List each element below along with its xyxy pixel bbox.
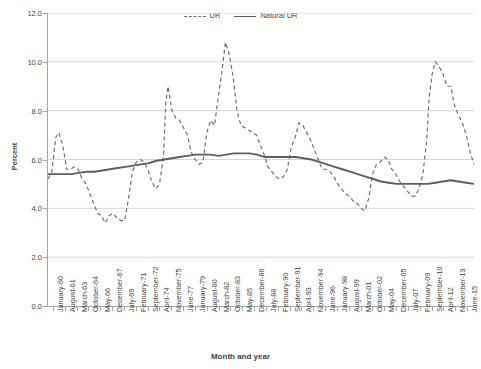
x-tick-label: August-99	[352, 279, 361, 312]
x-tick-label: January-60	[56, 276, 65, 312]
x-tick-label: September-10	[435, 266, 444, 312]
x-tick-label: January-79	[198, 276, 207, 312]
x-tick-mark	[136, 307, 137, 311]
x-tick-mark	[242, 307, 243, 311]
x-tick-mark	[159, 307, 160, 311]
x-tick-mark	[53, 307, 54, 311]
x-tick-mark	[124, 307, 125, 311]
x-tick-mark	[77, 307, 78, 311]
x-tick-mark	[112, 307, 113, 311]
x-tick-mark	[349, 307, 350, 311]
x-tick-label: April-12	[446, 287, 455, 312]
x-tick-mark	[266, 307, 267, 311]
x-tick-label: October-64	[91, 276, 100, 312]
x-tick-label: February-90	[281, 273, 290, 312]
x-tick-mark	[420, 307, 421, 311]
x-tick-mark	[148, 307, 149, 311]
x-tick-label: March-82	[222, 282, 231, 312]
x-tick-label: June-96	[328, 286, 337, 312]
x-tick-mark	[230, 307, 231, 311]
x-tick-mark	[384, 307, 385, 311]
x-tick-mark	[361, 307, 362, 311]
x-tick-mark	[207, 307, 208, 311]
x-tick-label: July-88	[269, 289, 278, 312]
x-tick-label: February-09	[423, 273, 432, 312]
x-tick-mark	[313, 307, 314, 311]
x-tick-label: July-07	[411, 289, 420, 312]
x-tick-mark	[278, 307, 279, 311]
x-tick-mark	[171, 307, 172, 311]
x-axis-title: Month and year	[0, 352, 481, 361]
x-tick-label: May-04	[387, 288, 396, 312]
x-tick-label: March-01	[364, 282, 373, 312]
x-tick-mark	[254, 307, 255, 311]
x-tick-label: May-66	[103, 288, 112, 312]
x-tick-label: October-83	[233, 276, 242, 312]
x-tick-label: June-77	[186, 286, 195, 312]
x-tick-mark	[432, 307, 433, 311]
x-tick-label: June-15	[470, 286, 479, 312]
x-tick-label: September-91	[293, 266, 302, 312]
x-axis-tick-labels: January-60August-61March-63October-64May…	[0, 0, 481, 369]
x-tick-mark	[65, 307, 66, 311]
x-tick-label: November-13	[458, 268, 467, 312]
x-tick-label: November-94	[316, 268, 325, 312]
x-tick-label: August-80	[210, 279, 219, 312]
x-tick-label: April-93	[304, 287, 313, 312]
x-tick-mark	[455, 307, 456, 311]
x-tick-label: February-71	[139, 273, 148, 312]
x-tick-label: April-74	[162, 287, 171, 312]
x-tick-mark	[100, 307, 101, 311]
x-tick-label: July-69	[127, 289, 136, 312]
x-tick-mark	[325, 307, 326, 311]
x-tick-mark	[337, 307, 338, 311]
x-tick-mark	[219, 307, 220, 311]
x-tick-label: May-85	[245, 288, 254, 312]
x-tick-mark	[88, 307, 89, 311]
x-tick-mark	[408, 307, 409, 311]
x-tick-mark	[195, 307, 196, 311]
x-tick-label: December-67	[115, 268, 124, 312]
x-tick-label: December-86	[257, 268, 266, 312]
x-tick-mark	[467, 307, 468, 311]
x-tick-mark	[372, 307, 373, 311]
x-tick-mark	[396, 307, 397, 311]
x-tick-label: December-05	[399, 268, 408, 312]
x-tick-mark	[183, 307, 184, 311]
x-tick-label: August-61	[68, 279, 77, 312]
x-tick-mark	[443, 307, 444, 311]
x-tick-label: November-75	[174, 268, 183, 312]
x-tick-label: October-02	[375, 276, 384, 312]
y-axis-title: Percent	[10, 127, 19, 187]
unemployment-rate-chart: UR Natural UR 0.02.04.06.08.010.012.0 Ja…	[0, 0, 481, 369]
x-tick-mark	[301, 307, 302, 311]
x-tick-label: January-98	[340, 276, 349, 312]
x-tick-label: March-63	[80, 282, 89, 312]
x-tick-label: September-72	[151, 266, 160, 312]
x-tick-mark	[290, 307, 291, 311]
